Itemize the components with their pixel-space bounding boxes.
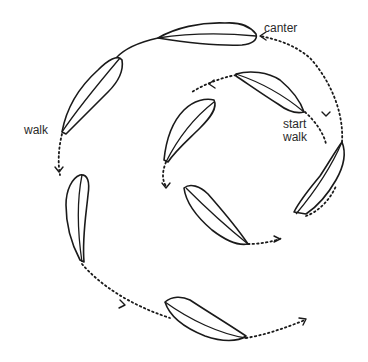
feather-inner-right [294,142,344,214]
label-walk: walk [24,124,48,136]
outer-dotted-path-end [246,320,305,338]
outer-dotted-path-bottom [82,264,170,318]
label-start: start [283,118,306,130]
feather-upper-left [62,58,122,134]
arrow-startwalk [322,112,330,116]
feather-inner-lower [184,186,248,245]
label-start-walk: walk [283,131,307,143]
inner-dotted-top [192,75,236,92]
label-canter: canter [264,22,297,34]
feather-canter-top [158,23,256,45]
inner-dotted-left [163,162,166,186]
feather-bottom [165,297,246,340]
spiral-diagram [0,0,368,362]
feather-inner-top [236,72,304,113]
feather-inner-left [164,99,215,162]
arrow-bottom-left [119,300,125,308]
canter-to-walk-line [116,38,158,58]
feather-left [66,175,89,262]
inner-dotted-startwalk [305,112,326,144]
arrow-inner-bottom [274,236,280,242]
